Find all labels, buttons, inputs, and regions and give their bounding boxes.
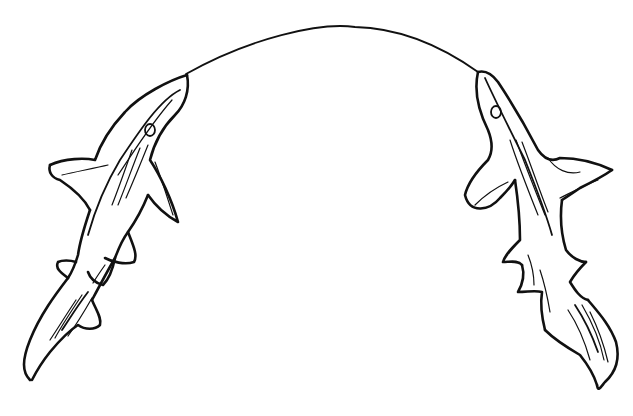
left-shark-tail bbox=[32, 300, 100, 380]
right-shark-left-fin bbox=[465, 72, 515, 209]
drawing-canvas bbox=[0, 0, 633, 416]
right-shark bbox=[465, 71, 618, 388]
left-shark bbox=[24, 75, 188, 380]
connecting-arc bbox=[186, 26, 478, 74]
shark-drawing bbox=[0, 0, 633, 416]
right-shark-pelvic-fin bbox=[570, 262, 588, 300]
left-shark-pectoral-fin bbox=[49, 165, 90, 210]
left-shark-eye bbox=[145, 124, 155, 136]
left-shark-back-outline bbox=[50, 75, 187, 165]
right-shark-back-outline bbox=[478, 71, 612, 170]
